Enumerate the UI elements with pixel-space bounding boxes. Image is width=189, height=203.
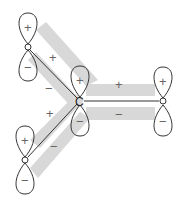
o3-lower-sign: − bbox=[21, 173, 29, 188]
o2-center bbox=[160, 98, 166, 104]
o2-lower-sign: − bbox=[159, 114, 167, 129]
o3-center bbox=[22, 157, 28, 163]
orbital-diagram: C + − + − + − + − + − + − + − bbox=[0, 0, 189, 203]
bond-o3-c-lower-sign: − bbox=[50, 139, 58, 154]
orbital-diagram-svg: C + − + − + − + − + − + − + − bbox=[0, 0, 189, 203]
o3-upper-sign: + bbox=[21, 133, 29, 148]
bond-c-o2-lower-sign: − bbox=[115, 107, 123, 122]
o1-upper-sign: + bbox=[24, 20, 32, 35]
bond-c-o2-upper-sign: + bbox=[115, 77, 123, 92]
bond-o1-c-lower-sign: − bbox=[45, 81, 53, 96]
c-upper-sign: + bbox=[76, 73, 84, 88]
o1-center bbox=[25, 44, 31, 50]
overlap-bands bbox=[28, 22, 155, 178]
o1-lower-sign: − bbox=[24, 60, 32, 75]
atom-label-c: C bbox=[75, 95, 84, 109]
bond-o1-c-upper-sign: + bbox=[49, 50, 57, 65]
c-lower-sign: − bbox=[76, 114, 84, 129]
bond-o3-c-upper-sign: + bbox=[46, 106, 54, 121]
o2-upper-sign: + bbox=[159, 74, 167, 89]
